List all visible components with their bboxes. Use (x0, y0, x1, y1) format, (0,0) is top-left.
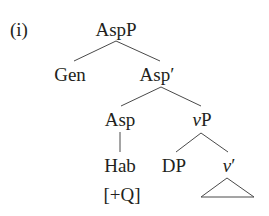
edge-aspbar-asp (121, 87, 161, 106)
edge-aspp-gen (74, 41, 116, 61)
edge-vp-dp (176, 133, 201, 152)
node-gen: Gen (54, 64, 86, 85)
node-hab: Hab (104, 155, 136, 176)
node-asp-bar: Asp′ (140, 64, 175, 85)
edge-aspbar-vp (161, 87, 201, 106)
edge-vp-vbar (201, 133, 228, 152)
node-vp-p: P (201, 109, 212, 130)
feature-plus-q: [+Q] (103, 184, 140, 205)
edge-aspp-aspbar (116, 41, 160, 61)
syntax-tree: (i) AspP Gen Asp′ Asp vP Hab [+Q] DP v′ (0, 0, 269, 216)
node-v-bar: v′ (223, 155, 236, 176)
node-aspp: AspP (95, 19, 136, 40)
node-v-bar-prime: ′ (231, 155, 235, 176)
node-vp: vP (192, 109, 211, 130)
collapsed-subtree-triangle (201, 178, 254, 197)
node-asp: Asp (105, 109, 136, 130)
example-label: (i) (10, 19, 28, 41)
node-dp: DP (162, 155, 186, 176)
